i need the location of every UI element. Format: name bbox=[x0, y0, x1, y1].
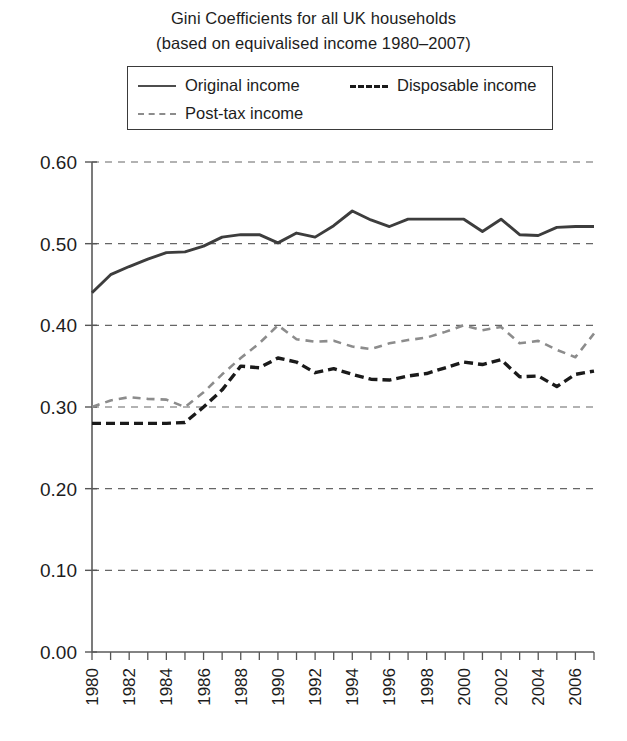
x-axis-tick-label: 1988 bbox=[232, 668, 251, 706]
x-axis-tick-label: 1992 bbox=[306, 668, 325, 706]
x-axis-tick-label: 2002 bbox=[492, 668, 511, 706]
plot-area: 0.000.100.200.300.400.500.60 19801982198… bbox=[0, 0, 627, 741]
y-axis-tick-label: 0.20 bbox=[40, 479, 77, 500]
y-axis-labels: 0.000.100.200.300.400.500.60 bbox=[40, 152, 77, 663]
y-axis-tick-label: 0.10 bbox=[40, 560, 77, 581]
series-line bbox=[92, 211, 594, 293]
x-axis-tick-label: 1982 bbox=[120, 668, 139, 706]
y-axis-tick-label: 0.00 bbox=[40, 642, 77, 663]
x-axis-tick-label: 1996 bbox=[380, 668, 399, 706]
series-line bbox=[92, 325, 594, 407]
x-axis-ticks bbox=[92, 652, 594, 660]
x-axis-tick-label: 1990 bbox=[269, 668, 288, 706]
y-axis-tick-label: 0.60 bbox=[40, 152, 77, 173]
x-axis-tick-label: 2006 bbox=[566, 668, 585, 706]
x-axis-tick-label: 1984 bbox=[157, 668, 176, 706]
y-axis-tick-label: 0.40 bbox=[40, 315, 77, 336]
data-series bbox=[92, 211, 594, 423]
x-axis-labels: 1980198219841986198819901992199419961998… bbox=[83, 668, 585, 706]
chart-page: Gini Coefficients for all UK households … bbox=[0, 0, 627, 741]
x-axis-tick-label: 1986 bbox=[195, 668, 214, 706]
x-axis-tick-label: 2004 bbox=[529, 668, 548, 706]
x-axis-tick-label: 1980 bbox=[83, 668, 102, 706]
y-axis-tick-label: 0.50 bbox=[40, 234, 77, 255]
chart-svg: 0.000.100.200.300.400.500.60 19801982198… bbox=[0, 0, 627, 741]
x-axis-tick-label: 2000 bbox=[455, 668, 474, 706]
gridlines bbox=[92, 162, 594, 570]
x-axis-tick-label: 1994 bbox=[343, 668, 362, 706]
x-axis-tick-label: 1998 bbox=[418, 668, 437, 706]
series-line bbox=[92, 358, 594, 423]
y-axis-tick-label: 0.30 bbox=[40, 397, 77, 418]
